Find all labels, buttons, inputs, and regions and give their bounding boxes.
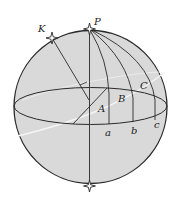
sphere: [14, 31, 167, 184]
label-k: K: [37, 23, 46, 34]
label-c-upper: C: [140, 80, 148, 91]
label-a-upper: A: [97, 103, 105, 114]
label-b-lower: b: [131, 125, 137, 136]
label-b-upper: B: [117, 93, 125, 104]
label-p: P: [93, 16, 101, 27]
diagram-canvas: K P A B C a b c: [0, 0, 181, 203]
label-c-lower: c: [154, 119, 160, 130]
label-a-lower: a: [105, 127, 111, 138]
celestial-sphere-diagram: K P A B C a b c: [0, 0, 181, 203]
